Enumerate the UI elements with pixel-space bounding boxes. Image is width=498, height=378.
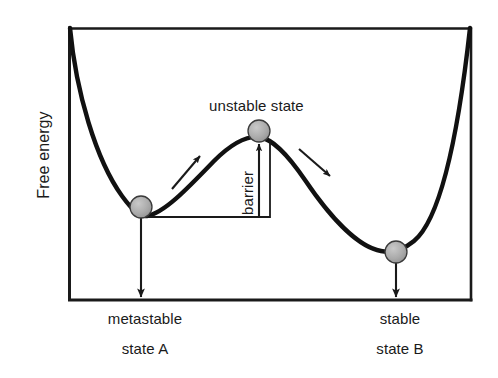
state-a-ball (130, 196, 152, 218)
unstable-state-label: unstable state (209, 96, 304, 115)
state-b-label: stable state B (352, 309, 448, 358)
free-energy-curve (70, 28, 470, 252)
state-b-label-line1: stable (352, 309, 448, 328)
free-energy-diagram: Free energy unstable state barrier metas… (0, 0, 498, 378)
uphill-direction-arrow (172, 156, 200, 189)
y-axis-label: Free energy (34, 75, 53, 235)
unstable-state-ball (248, 120, 270, 142)
state-b-ball (385, 241, 407, 263)
state-a-label-line1: metastable (97, 309, 193, 328)
barrier-label: barrier (238, 171, 257, 215)
state-b-label-line2: state B (352, 339, 448, 358)
downhill-direction-arrow (299, 149, 330, 176)
state-a-label: metastable state A (97, 309, 193, 358)
state-a-label-line2: state A (97, 339, 193, 358)
